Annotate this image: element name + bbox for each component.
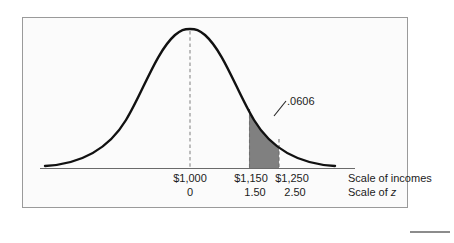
chart-canvas: [0, 0, 454, 243]
normal-distribution-figure: .0606 $1,000 $1,150 $1,250 0 1.50 2.50 S…: [0, 0, 454, 243]
annotation-leader-line: [274, 101, 286, 116]
corner-rule: [410, 231, 450, 233]
tick-label-z-1: 1.50: [244, 186, 265, 199]
axis-row-label-z: Scale of z: [348, 186, 396, 199]
axis-row-label-z-prefix: Scale of: [348, 186, 391, 198]
axis-row-label-incomes: Scale of incomes: [348, 172, 432, 185]
tick-label-z-0: 0: [187, 186, 193, 199]
tick-label-income-0: $1,000: [173, 172, 207, 185]
axis-row-label-z-symbol: z: [391, 186, 397, 198]
tick-label-income-1: $1,150: [234, 172, 268, 185]
probability-annotation-label: .0606: [287, 95, 315, 107]
shaded-probability-region: [249, 20, 279, 168]
tick-label-income-2: $1,250: [275, 172, 309, 185]
tick-label-z-2: 2.50: [284, 186, 305, 199]
